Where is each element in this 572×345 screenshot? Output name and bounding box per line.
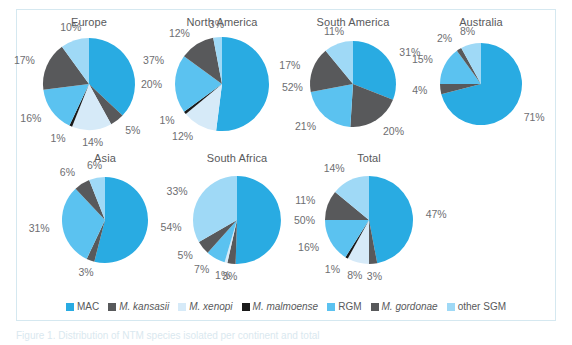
pie-svg: 50%3%1%7%5%33% — [171, 165, 303, 285]
slice-label: 47% — [426, 208, 447, 220]
slice-label: 71% — [524, 111, 545, 123]
legend-label: RGM — [338, 301, 361, 312]
slice-label: 14% — [324, 162, 345, 174]
pie-svg-wrap: 71%4%15%2%8% — [415, 29, 547, 149]
chart-legend: MACM. kansasiiM. xenopiM. malmoenseRGMM.… — [17, 301, 555, 312]
legend-swatch-icon — [371, 303, 379, 311]
slice-label: 21% — [295, 120, 316, 132]
pie-title: Asia — [39, 152, 171, 164]
figure-panel: Europe37%5%14%1%16%17%10%North America52… — [16, 9, 556, 321]
slice-label: 6% — [87, 159, 102, 171]
legend-item-m-gordonae[interactable]: M. gordonae — [371, 301, 438, 312]
slice-label: 1% — [215, 269, 230, 281]
slice-label: 1% — [325, 263, 340, 275]
pie-title: Europe — [23, 16, 155, 28]
slice-label: 15% — [412, 53, 433, 65]
pie-slice-mac — [216, 37, 269, 131]
legend-swatch-icon — [447, 303, 455, 311]
slice-label: 17% — [279, 59, 300, 71]
legend-label: M. kansasii — [119, 301, 169, 312]
pie-svg-wrap: 52%12%1%20%12%3% — [156, 29, 288, 149]
slice-label: 17% — [14, 54, 35, 66]
legend-label: other SGM — [458, 301, 506, 312]
pie-title: South America — [287, 16, 419, 28]
slice-label: 3% — [209, 18, 224, 30]
legend-label: MAC — [77, 301, 99, 312]
legend-swatch-icon — [242, 303, 250, 311]
figure-caption: Figure 1. Distribution of NTM species is… — [16, 330, 556, 341]
slice-label: 4% — [412, 84, 427, 96]
pie-svg-wrap: 31%20%21%17%11% — [287, 29, 419, 149]
slice-label: 20% — [383, 125, 404, 137]
pie-svg: 54%3%31%6%6% — [39, 165, 171, 285]
pie-chart-grid: Europe37%5%14%1%16%17%10%North America52… — [17, 10, 555, 278]
slice-label: 20% — [141, 78, 162, 90]
legend-swatch-icon — [66, 303, 74, 311]
pie-slice-mac — [236, 176, 281, 264]
pie-slice-mac — [369, 176, 413, 263]
legend-swatch-icon — [327, 303, 335, 311]
slice-label: 8% — [460, 25, 475, 37]
slice-label: 6% — [60, 166, 75, 178]
slice-label: 31% — [29, 222, 50, 234]
pie-title: South Africa — [171, 152, 303, 164]
pie-svg-wrap: 50%3%1%7%5%33% — [171, 165, 303, 285]
slice-label: 10% — [60, 21, 81, 33]
legend-item-other-sgm[interactable]: other SGM — [447, 301, 506, 312]
slice-label: 12% — [172, 130, 193, 142]
pie-svg-wrap: 47%3%8%1%16%11%14% — [303, 165, 435, 285]
slice-label: 2% — [437, 32, 452, 44]
slice-label: 12% — [169, 27, 190, 39]
pie-svg: 31%20%21%17%11% — [287, 29, 419, 149]
slice-label: 8% — [347, 269, 362, 281]
slice-label: 7% — [194, 263, 209, 275]
legend-item-m-malmoense[interactable]: M. malmoense — [242, 301, 319, 312]
slice-label: 1% — [50, 132, 65, 144]
slice-label: 14% — [82, 136, 103, 148]
figure-caption-strip: Figure 1. Distribution of NTM species is… — [16, 330, 556, 345]
slice-label: 16% — [20, 112, 41, 124]
slice-label: 5% — [125, 124, 140, 136]
legend-item-rgm[interactable]: RGM — [327, 301, 361, 312]
pie-svg-wrap: 37%5%14%1%16%17%10% — [23, 29, 155, 149]
legend-item-m-xenopi[interactable]: M. xenopi — [178, 301, 232, 312]
pie-title: Australia — [415, 16, 547, 28]
legend-item-m-kansasii[interactable]: M. kansasii — [108, 301, 169, 312]
legend-item-mac[interactable]: MAC — [66, 301, 99, 312]
legend-swatch-icon — [108, 303, 116, 311]
slice-label: 5% — [178, 249, 193, 261]
slice-label: 11% — [324, 25, 344, 37]
slice-label: 16% — [298, 241, 319, 253]
legend-swatch-icon — [178, 303, 186, 311]
pie-svg-wrap: 54%3%31%6%6% — [39, 165, 171, 285]
slice-label: 1% — [159, 114, 174, 126]
pie-svg: 52%12%1%20%12%3% — [156, 29, 288, 149]
slice-label: 11% — [295, 194, 315, 206]
slice-label: 33% — [167, 185, 188, 197]
slice-label: 3% — [367, 270, 382, 282]
legend-label: M. gordonae — [382, 301, 438, 312]
slice-label: 3% — [78, 266, 93, 278]
pie-svg: 47%3%8%1%16%11%14% — [303, 165, 435, 285]
legend-label: M. xenopi — [189, 301, 232, 312]
pie-svg: 37%5%14%1%16%17%10% — [23, 29, 155, 149]
legend-label: M. malmoense — [253, 301, 319, 312]
pie-svg: 71%4%15%2%8% — [415, 29, 547, 149]
